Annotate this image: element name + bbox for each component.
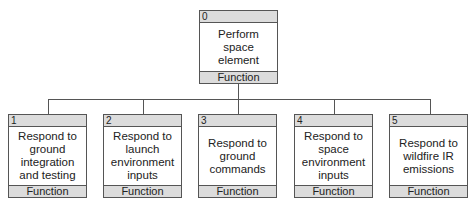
function-type: Function	[9, 185, 86, 197]
root-stem-connector	[238, 84, 239, 99]
function-label: Respond to ground commands	[199, 127, 276, 185]
child-1-connector	[48, 99, 49, 114]
function-box-1: 1 Respond to ground integration and test…	[8, 114, 87, 198]
function-label: Respond to ground integration and testin…	[9, 127, 86, 185]
function-box-0: 0 Perform space element Function	[199, 10, 278, 84]
function-type: Function	[104, 185, 181, 197]
child-3-connector	[238, 99, 239, 114]
function-id: 2	[104, 115, 181, 127]
child-5-connector	[430, 99, 431, 114]
function-id: 3	[199, 115, 276, 127]
function-label: Respond to launch environment inputs	[104, 127, 181, 185]
function-type: Function	[199, 185, 276, 197]
horizontal-bus-connector	[48, 99, 431, 100]
function-label: Perform space element	[200, 23, 277, 71]
function-type: Function	[200, 71, 277, 83]
function-box-4: 4 Respond to space environment inputs Fu…	[294, 114, 373, 198]
function-label: Respond to wildfire IR emissions	[390, 127, 467, 185]
child-2-connector	[143, 99, 144, 114]
function-id: 4	[295, 115, 372, 127]
function-id: 0	[200, 11, 277, 23]
function-type: Function	[390, 185, 467, 197]
function-box-5: 5 Respond to wildfire IR emissions Funct…	[389, 114, 468, 198]
function-id: 5	[390, 115, 467, 127]
function-type: Function	[295, 185, 372, 197]
child-4-connector	[334, 99, 335, 114]
function-box-2: 2 Respond to launch environment inputs F…	[103, 114, 182, 198]
function-label: Respond to space environment inputs	[295, 127, 372, 185]
function-id: 1	[9, 115, 86, 127]
function-box-3: 3 Respond to ground commands Function	[198, 114, 277, 198]
